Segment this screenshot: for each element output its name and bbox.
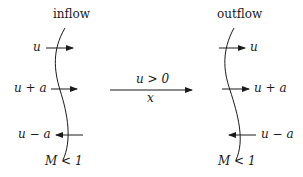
inflow-label-u: u (33, 41, 41, 53)
outflow-label-u-minus-a: u − a (261, 128, 294, 140)
center-label-x: x (147, 92, 154, 104)
outflow-title: outflow (217, 8, 262, 20)
outflow-label-u-plus-a: u + a (254, 82, 287, 94)
outflow-condition: M < 1 (218, 155, 256, 167)
inflow-condition: M < 1 (45, 155, 83, 167)
inflow-label-u-plus-a: u + a (14, 82, 47, 94)
inflow-title: inflow (53, 8, 90, 20)
center-label-velocity: u > 0 (136, 73, 169, 85)
outflow-label-u: u (250, 41, 258, 53)
inflow-label-u-minus-a: u − a (18, 128, 51, 140)
characteristics-diagram: inflow u u + a u − a M < 1 u > 0 x outfl… (0, 0, 303, 177)
